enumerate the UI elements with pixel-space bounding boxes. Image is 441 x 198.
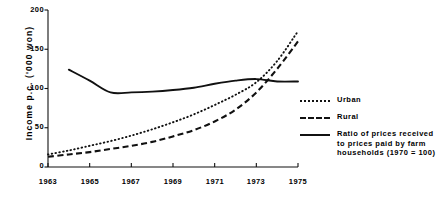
x-axis-ticks	[48, 163, 298, 167]
dashed-line-sample-icon	[300, 114, 330, 123]
dotted-line-sample-icon	[300, 97, 330, 106]
legend-item-rural: Rural	[300, 112, 441, 123]
legend-label-price-ratio: Ratio of prices received to prices paid …	[337, 129, 435, 158]
solid-line-sample-icon	[300, 131, 330, 140]
chart-figure: Income p.c. ('000 won) 200 150 100 50 0 …	[0, 0, 441, 198]
series-line-rural	[48, 41, 298, 156]
legend-label-urban: Urban	[337, 95, 361, 105]
series-line-ratio	[69, 70, 298, 94]
legend-label-rural: Rural	[337, 112, 359, 122]
legend-label-price-ratio-line2: to prices paid by farm	[337, 139, 435, 149]
legend-item-urban: Urban	[300, 95, 441, 106]
legend-label-price-ratio-line3: households (1970 = 100)	[337, 148, 435, 158]
legend-label-price-ratio-line1: Ratio of prices received	[337, 129, 435, 139]
legend-item-price-ratio: Ratio of prices received to prices paid …	[300, 129, 441, 158]
chart-legend: Urban Rural Ratio of prices received to …	[300, 95, 441, 164]
